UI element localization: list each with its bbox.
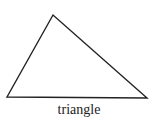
triangle-polygon	[7, 15, 147, 98]
triangle-figure: triangle	[0, 0, 158, 121]
figure-caption: triangle	[0, 102, 158, 118]
